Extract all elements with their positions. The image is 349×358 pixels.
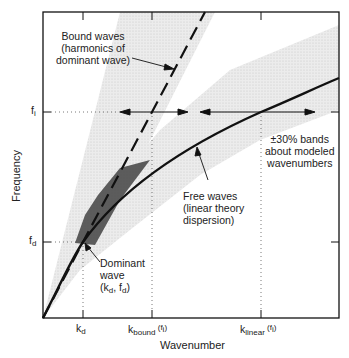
x-tick-kbound: kbound (fi) bbox=[128, 322, 167, 339]
bound-waves-label: Bound waves (harmonics of dominant wave) bbox=[56, 30, 130, 66]
x-tick-klinear: klinear (fi) bbox=[240, 322, 276, 339]
y-tick-fi: fi bbox=[31, 104, 36, 120]
x-tick-kd: kd bbox=[76, 322, 86, 338]
bands-label: ±30% bands about modeled wavenumbers bbox=[265, 133, 334, 169]
dominant-wave-label: Dominant wave (kd, fd) bbox=[100, 257, 145, 297]
x-axis-title: Wavenumber bbox=[160, 339, 225, 351]
y-tick-fd: fd bbox=[29, 234, 36, 250]
y-axis-title: Frequency bbox=[10, 150, 22, 202]
free-waves-label: Free waves (linear theory dispersion) bbox=[183, 190, 244, 226]
diagram-canvas bbox=[0, 0, 349, 358]
